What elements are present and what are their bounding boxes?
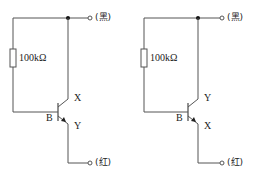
left-resistor-label: 100kΩ: [19, 53, 46, 63]
right-resistor: [141, 49, 147, 67]
left-collector-lead: [58, 99, 68, 107]
left-base-label: B: [46, 113, 53, 123]
right-upper-lead-label: Y: [204, 93, 211, 103]
right-collector-lead: [188, 99, 198, 107]
right-circuit: [141, 16, 224, 165]
left-bottom-terminal-label: (红): [95, 158, 111, 167]
right-resistor-label: 100kΩ: [150, 53, 177, 63]
left-lower-lead-label: Y: [74, 121, 81, 131]
circuit-diagram: [0, 0, 257, 176]
left-top-terminal: [88, 16, 92, 20]
right-bottom-terminal-label: (红): [227, 158, 243, 167]
left-bottom-terminal: [88, 161, 92, 165]
right-bottom-terminal: [220, 161, 224, 165]
left-circuit: [10, 16, 92, 165]
right-lower-lead-label: X: [204, 121, 211, 131]
left-top-terminal-label: (黑): [95, 13, 111, 22]
left-resistor: [10, 49, 16, 67]
left-upper-lead-label: X: [74, 93, 81, 103]
right-base-label: B: [176, 113, 183, 123]
right-top-terminal-label: (黑): [227, 13, 243, 22]
right-top-terminal: [220, 16, 224, 20]
